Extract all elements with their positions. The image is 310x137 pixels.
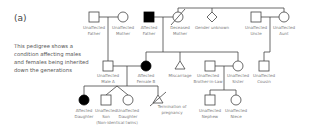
description-text: This pedigree shows a condition affectin… (14, 42, 89, 74)
svg-text:Unaffected: Unaffected (83, 25, 105, 30)
svg-text:Miscarriage: Miscarriage (168, 73, 192, 78)
svg-text:Father: Father (88, 31, 101, 36)
individual-unaffected-father: Unaffected Father (83, 12, 105, 36)
individual-unaffected-mother: Unaffected Mother (112, 12, 134, 36)
svg-text:Affected: Affected (76, 108, 93, 113)
svg-text:Son: Son (102, 114, 110, 119)
svg-text:Nephew: Nephew (202, 114, 219, 119)
svg-text:pregnancy: pregnancy (161, 110, 183, 115)
individual-niece: Unaffected Niece (225, 95, 247, 119)
individual-unaffected-aunt: Unaffected Aunt (273, 12, 295, 36)
svg-text:Affected: Affected (141, 25, 158, 30)
male-square-icon (251, 12, 261, 22)
individual-miscarriage: Miscarriage (168, 61, 192, 78)
individual-son: Unaffected Son (95, 95, 117, 119)
svg-text:Sister: Sister (232, 79, 244, 84)
individual-daughter: Unaffected Daughter (117, 95, 139, 119)
individual-deceased-mother: Deceased Mother (170, 9, 190, 36)
individual-female-b: Affected Female B (137, 61, 156, 84)
svg-text:Unaffected: Unaffected (117, 108, 139, 113)
svg-text:Affected: Affected (138, 73, 155, 78)
affected-male-square-icon (144, 12, 154, 22)
individual-affected-father: Affected Father (141, 12, 158, 36)
female-circle-icon (118, 12, 128, 22)
svg-text:Male A: Male A (101, 79, 115, 84)
individual-sister: Unaffected Sister (227, 61, 249, 84)
svg-text:Unaffected: Unaffected (97, 73, 119, 78)
svg-text:Female B: Female B (137, 79, 156, 84)
female-circle-icon (231, 95, 241, 105)
svg-text:Daughter: Daughter (119, 114, 138, 119)
svg-text:Unaffected: Unaffected (253, 73, 275, 78)
svg-text:Gender unknown: Gender unknown (195, 25, 230, 30)
svg-text:Father: Father (143, 31, 156, 36)
male-square-icon (205, 61, 215, 71)
female-circle-icon (123, 95, 133, 105)
affected-female-circle-icon (141, 61, 151, 71)
individual-gender-unknown: Gender unknown (195, 12, 230, 30)
svg-text:Mother: Mother (173, 31, 187, 36)
svg-text:Brother-in-Law: Brother-in-Law (193, 79, 223, 84)
svg-text:Unaffected: Unaffected (199, 108, 221, 113)
male-square-icon (205, 95, 215, 105)
svg-text:Unaffected: Unaffected (112, 25, 134, 30)
svg-text:Niece: Niece (230, 114, 242, 119)
individual-affected-daughter: Affected Daughter (75, 95, 94, 119)
individual-termination: Termination of pregnancy (150, 92, 187, 115)
individual-cousin: Unaffected Cousin (253, 61, 275, 84)
male-square-icon (259, 61, 269, 71)
svg-text:Unaffected: Unaffected (273, 25, 295, 30)
svg-text:Unaffected: Unaffected (227, 73, 249, 78)
male-square-icon (103, 61, 113, 71)
triangle-icon (175, 61, 185, 69)
svg-text:Mother: Mother (116, 31, 130, 36)
affected-female-circle-icon (79, 95, 89, 105)
svg-text:Unaffected: Unaffected (245, 25, 267, 30)
svg-text:Termination of: Termination of (157, 104, 187, 109)
individual-brother-in-law: Unaffected Brother-in-Law (193, 61, 223, 84)
svg-text:Cousin: Cousin (257, 79, 271, 84)
male-square-icon (101, 95, 111, 105)
female-circle-icon (233, 61, 243, 71)
svg-text:Unaffected: Unaffected (225, 108, 247, 113)
svg-text:Daughter: Daughter (75, 114, 94, 119)
individual-male-a: Unaffected Male A (97, 61, 119, 84)
individual-unaffected-uncle: Unaffected Uncle (245, 12, 267, 36)
svg-text:Deceased: Deceased (170, 25, 190, 30)
svg-text:Aunt: Aunt (279, 31, 289, 36)
svg-text:Unaffected: Unaffected (95, 108, 117, 113)
male-square-icon (89, 12, 99, 22)
individual-nephew: Unaffected Nephew (199, 95, 221, 119)
female-circle-icon (279, 12, 289, 22)
panel-label: (a) (14, 13, 27, 23)
svg-text:Uncle: Uncle (250, 31, 262, 36)
diamond-icon (207, 12, 217, 22)
svg-text:Unaffected: Unaffected (197, 73, 219, 78)
twins-note: (Non-identical twins) (96, 120, 138, 125)
